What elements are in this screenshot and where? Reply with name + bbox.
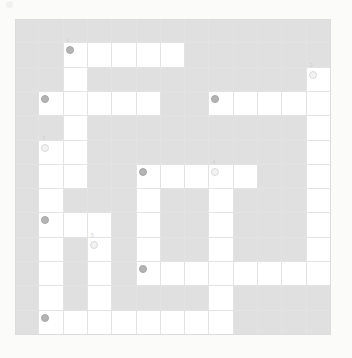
grid-cell-open[interactable] [282, 262, 306, 286]
grid-cell-open[interactable] [137, 165, 161, 189]
grid-cell-blocked [234, 68, 258, 92]
clue-marker-dark[interactable] [211, 95, 219, 103]
grid-cell-open[interactable] [64, 311, 88, 335]
grid-cell-open[interactable] [307, 213, 331, 237]
grid-cell-blocked [234, 189, 258, 213]
grid-cell-blocked [258, 238, 282, 262]
grid-cell-open[interactable] [137, 311, 161, 335]
clue-marker-dark[interactable] [41, 216, 49, 224]
grid-cell-open[interactable] [64, 165, 88, 189]
grid-cell-open[interactable] [64, 213, 88, 237]
grid-cell-blocked [112, 165, 136, 189]
grid-cell-open[interactable] [307, 141, 331, 165]
grid-cell-open[interactable] [64, 68, 88, 92]
grid-cell-open[interactable] [161, 262, 185, 286]
grid-cell-open[interactable]: 2 [307, 68, 331, 92]
clue-marker-light[interactable] [309, 71, 317, 79]
grid-cell-blocked [15, 286, 39, 310]
grid-cell-open[interactable] [137, 43, 161, 67]
grid-cell-open[interactable] [137, 189, 161, 213]
clue-marker-dark[interactable] [41, 314, 49, 322]
grid-cell-open[interactable] [307, 165, 331, 189]
grid-cell-open[interactable] [39, 238, 63, 262]
grid-cell-blocked [209, 116, 233, 140]
grid-cell-open[interactable] [88, 92, 112, 116]
grid-cell-blocked [112, 213, 136, 237]
grid-cell-open[interactable] [161, 43, 185, 67]
grid-cell-open[interactable] [282, 92, 306, 116]
grid-cell-blocked [161, 19, 185, 43]
grid-cell-blocked [15, 141, 39, 165]
grid-cell-open[interactable] [185, 311, 209, 335]
grid-cell-open[interactable] [209, 238, 233, 262]
grid-cell-open[interactable] [161, 311, 185, 335]
grid-cell-open[interactable] [307, 189, 331, 213]
grid-cell-open[interactable] [209, 286, 233, 310]
grid-cell-open[interactable] [209, 262, 233, 286]
clue-number: 1 [67, 38, 70, 43]
grid-cell-open[interactable] [161, 165, 185, 189]
grid-cell-blocked [282, 116, 306, 140]
clue-marker-dark[interactable] [41, 95, 49, 103]
grid-cell-open[interactable] [209, 311, 233, 335]
grid-cell-open[interactable] [137, 262, 161, 286]
grid-cell-blocked [185, 116, 209, 140]
grid-cell-open[interactable] [234, 262, 258, 286]
grid-cell-open[interactable] [39, 311, 63, 335]
grid-cell-open[interactable] [185, 262, 209, 286]
grid-cell-open[interactable] [258, 92, 282, 116]
grid-cell-open[interactable] [307, 92, 331, 116]
grid-cell-open[interactable] [39, 213, 63, 237]
clue-marker-light[interactable] [90, 241, 98, 249]
grid-cell-blocked [39, 68, 63, 92]
grid-cell-open[interactable] [307, 116, 331, 140]
grid-cell-open[interactable] [64, 92, 88, 116]
grid-cell-open[interactable] [209, 189, 233, 213]
clue-marker-light[interactable] [41, 144, 49, 152]
grid-cell-open[interactable] [39, 189, 63, 213]
crossword-grid[interactable]: 12345 [15, 19, 331, 335]
grid-cell-open[interactable] [307, 262, 331, 286]
grid-cell-open[interactable] [209, 213, 233, 237]
grid-cell-open[interactable] [88, 43, 112, 67]
grid-cell-blocked [185, 286, 209, 310]
grid-cell-open[interactable] [209, 92, 233, 116]
clue-marker-dark[interactable] [139, 265, 147, 273]
grid-cell-open[interactable] [258, 262, 282, 286]
grid-cell-open[interactable] [112, 43, 136, 67]
grid-cell-blocked [161, 116, 185, 140]
grid-cell-open[interactable] [137, 238, 161, 262]
grid-cell-open[interactable] [39, 165, 63, 189]
grid-cell-open[interactable] [234, 165, 258, 189]
grid-cell-blocked [258, 43, 282, 67]
grid-cell-open[interactable]: 1 [64, 43, 88, 67]
grid-cell-open[interactable] [88, 262, 112, 286]
grid-cell-open[interactable]: 3 [39, 141, 63, 165]
grid-cell-open[interactable] [88, 311, 112, 335]
grid-cell-open[interactable] [137, 92, 161, 116]
grid-cell-open[interactable] [39, 262, 63, 286]
grid-cell-blocked [137, 68, 161, 92]
clue-marker-dark[interactable] [139, 168, 147, 176]
grid-cell-blocked [161, 68, 185, 92]
grid-cell-blocked [161, 286, 185, 310]
grid-cell-blocked [185, 189, 209, 213]
grid-cell-open[interactable] [39, 92, 63, 116]
clue-marker-light[interactable] [211, 168, 219, 176]
grid-cell-open[interactable] [234, 92, 258, 116]
grid-cell-open[interactable] [64, 141, 88, 165]
grid-cell-open[interactable] [185, 165, 209, 189]
grid-cell-blocked [112, 141, 136, 165]
grid-cell-open[interactable] [112, 311, 136, 335]
grid-cell-open[interactable] [39, 286, 63, 310]
grid-cell-blocked [112, 286, 136, 310]
grid-cell-open[interactable] [88, 286, 112, 310]
grid-cell-open[interactable] [137, 213, 161, 237]
grid-cell-open[interactable]: 5 [88, 238, 112, 262]
grid-cell-open[interactable] [307, 238, 331, 262]
grid-cell-blocked [64, 262, 88, 286]
grid-cell-open[interactable] [112, 92, 136, 116]
grid-cell-open[interactable] [64, 116, 88, 140]
clue-marker-dark[interactable] [66, 46, 74, 54]
grid-cell-open[interactable]: 4 [209, 165, 233, 189]
